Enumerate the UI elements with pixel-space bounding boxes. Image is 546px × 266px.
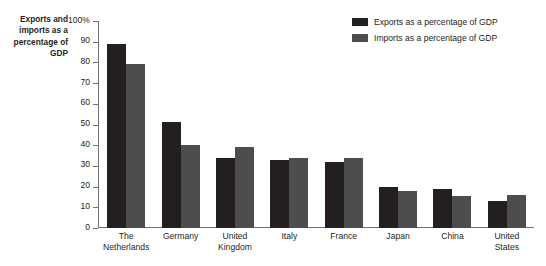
y-axis-title-line: percentage of [2,37,68,48]
x-axis-label: France [317,231,371,242]
bar-group [162,21,200,228]
y-axis-tick-label: 70 [80,77,90,88]
y-axis-title: Exports and imports as a percentage of G… [2,14,68,60]
bar-exports[interactable] [270,160,289,228]
y-axis-tick-label: 100% [68,15,90,26]
x-axis-label: China [425,231,479,242]
x-axis-label-line: States [480,242,534,253]
x-axis-label-line: United [208,231,262,242]
y-axis-tick: 60 [93,104,98,105]
y-axis-tick: 20 [93,187,98,188]
bar-group [107,21,145,228]
x-axis-label-line: Kingdom [208,242,262,253]
y-axis-tick: 90 [93,42,98,43]
bar-group [379,21,417,228]
bar-imports[interactable] [181,145,200,228]
y-axis-tick-label: 50 [80,118,90,129]
y-axis-tick: 50 [93,125,98,126]
y-axis-tick: 100% [93,21,98,22]
bar-group [216,21,254,228]
y-axis-tick: 70 [93,83,98,84]
y-axis-tick-label: 60 [80,97,90,108]
bar-imports[interactable] [289,158,308,228]
x-axis-label-line: France [317,231,371,242]
bar-group [325,21,363,228]
bar-imports[interactable] [126,64,145,228]
bar-imports[interactable] [507,195,526,228]
x-axis-label-line: Germany [153,231,207,242]
x-axis-label-line: United [480,231,534,242]
bar-exports[interactable] [379,187,398,228]
bar-group [270,21,308,228]
bar-group [488,21,526,228]
bar-imports[interactable] [344,158,363,228]
y-axis-tick-label: 0 [85,222,90,233]
x-axis-label-line: Japan [371,231,425,242]
x-axis-label: Germany [153,231,207,242]
x-axis-label: Italy [262,231,316,242]
chart-legend: Exports as a percentage of GDPImports as… [352,15,498,47]
x-axis-label-line: The [99,231,153,242]
legend-item[interactable]: Imports as a percentage of GDP [352,31,498,44]
bar-exports[interactable] [107,44,126,228]
y-axis-tick-label: 10 [80,201,90,212]
y-axis-tick: 80 [93,62,98,63]
y-axis-tick: 0 [93,228,98,229]
x-axis-label: UnitedKingdom [208,231,262,252]
bar-exports[interactable] [325,162,344,228]
x-axis-label: Japan [371,231,425,242]
x-axis-label-line: China [425,231,479,242]
bar-imports[interactable] [452,196,471,228]
y-axis-tick-label: 90 [80,35,90,46]
bar-chart: Exports and imports as a percentage of G… [0,0,546,266]
x-axis-labels: TheNetherlandsGermanyUnitedKingdomItalyF… [99,231,534,265]
x-axis-label: TheNetherlands [99,231,153,252]
bar-group [433,21,471,228]
bar-exports[interactable] [488,201,507,228]
bar-imports[interactable] [398,191,417,228]
bar-exports[interactable] [162,122,181,228]
bar-groups [99,21,534,228]
y-axis-title-line: imports as a [2,25,68,36]
x-axis-label-line: Italy [262,231,316,242]
plot-area: 0102030405060708090100% [98,21,534,228]
legend-item[interactable]: Exports as a percentage of GDP [352,15,498,28]
legend-swatch [352,18,368,26]
x-axis-label-line: Netherlands [99,242,153,253]
y-axis-tick: 40 [93,145,98,146]
y-axis-tick: 10 [93,207,98,208]
y-axis-tick: 30 [93,166,98,167]
legend-swatch [352,34,368,42]
y-axis-title-line: GDP [2,48,68,59]
bar-exports[interactable] [433,189,452,228]
bar-exports[interactable] [216,158,235,228]
legend-label: Exports as a percentage of GDP [374,17,498,27]
y-axis-tick-label: 20 [80,180,90,191]
y-axis-tick-label: 40 [80,139,90,150]
y-axis-tick-label: 30 [80,159,90,170]
y-axis-tick-label: 80 [80,56,90,67]
legend-label: Imports as a percentage of GDP [374,33,497,43]
x-axis-label: UnitedStates [480,231,534,252]
bar-imports[interactable] [235,147,254,228]
y-axis-title-line: Exports and [2,14,68,25]
